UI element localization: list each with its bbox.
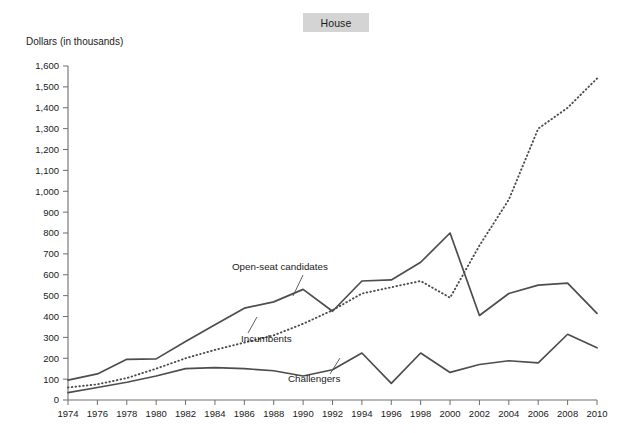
series-label-open-seat-candidates: Open-seat candidates bbox=[232, 261, 328, 272]
x-tick-label: 1978 bbox=[116, 408, 137, 419]
x-tick-label: 1984 bbox=[204, 408, 225, 419]
y-tick-label: 700 bbox=[43, 248, 59, 259]
y-tick-label: 1,400 bbox=[35, 102, 59, 113]
x-tick-label: 1982 bbox=[175, 408, 196, 419]
y-tick-label: 100 bbox=[43, 374, 59, 385]
y-tick-label: 500 bbox=[43, 290, 59, 301]
series-label-challengers: Challengers bbox=[288, 373, 340, 384]
x-tick-label: 1996 bbox=[381, 408, 402, 419]
x-tick-label: 1986 bbox=[234, 408, 255, 419]
y-tick-label: 800 bbox=[43, 227, 59, 238]
x-tick-label: 2008 bbox=[557, 408, 578, 419]
series-label-incumbents: Incumbents bbox=[241, 333, 292, 344]
y-tick-label: 600 bbox=[43, 269, 59, 280]
y-tick-label: 1,300 bbox=[35, 123, 59, 134]
x-tick-label: 1976 bbox=[87, 408, 108, 419]
chart-figure: House Dollars (in thousands) 01002003004… bbox=[0, 0, 620, 433]
y-tick-label: 900 bbox=[43, 207, 59, 218]
x-tick-label: 2006 bbox=[528, 408, 549, 419]
y-tick-label: 200 bbox=[43, 353, 59, 364]
y-tick-label: 1,000 bbox=[35, 186, 59, 197]
y-tick-label: 1,500 bbox=[35, 81, 59, 92]
annotation-leader-incumbents bbox=[248, 317, 257, 333]
x-tick-label: 1974 bbox=[57, 408, 78, 419]
y-tick-label: 300 bbox=[43, 332, 59, 343]
x-tick-label: 1992 bbox=[322, 408, 343, 419]
annotation-leader-open-seat-candidates bbox=[293, 275, 303, 296]
y-tick-label: 0 bbox=[54, 394, 59, 405]
y-tick-label: 1,200 bbox=[35, 144, 59, 155]
line-chart-plot: 01002003004005006007008009001,0001,1001,… bbox=[0, 0, 620, 433]
y-tick-label: 1,600 bbox=[35, 60, 59, 71]
x-tick-label: 1988 bbox=[263, 408, 284, 419]
x-tick-label: 2010 bbox=[586, 408, 607, 419]
x-tick-label: 2004 bbox=[498, 408, 519, 419]
x-tick-label: 1994 bbox=[351, 408, 372, 419]
x-tick-label: 1980 bbox=[146, 408, 167, 419]
x-tick-label: 2002 bbox=[469, 408, 490, 419]
y-tick-label: 400 bbox=[43, 311, 59, 322]
x-tick-label: 1998 bbox=[410, 408, 431, 419]
series-line-open-seat-candidates bbox=[68, 233, 597, 380]
x-tick-label: 1990 bbox=[293, 408, 314, 419]
y-tick-label: 1,100 bbox=[35, 165, 59, 176]
series-line-incumbents bbox=[68, 79, 597, 388]
x-tick-label: 2000 bbox=[439, 408, 460, 419]
